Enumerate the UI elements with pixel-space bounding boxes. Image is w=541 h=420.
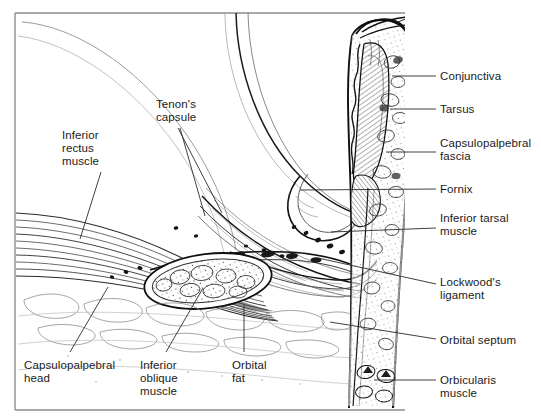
inferior-oblique-muscle-cross-section [141, 246, 275, 315]
label-tenons-capsule: Tenon's capsule [156, 98, 196, 124]
illustration-canvas [0, 0, 541, 420]
leader-line-fornix [300, 189, 436, 190]
label-lockwoods-ligament: Lockwood's ligament [440, 276, 501, 302]
label-inferior-rectus-muscle: Inferior rectus muscle [62, 129, 99, 169]
label-conjunctiva: Conjunctiva [440, 70, 501, 83]
label-orbital-fat: Orbital fat [232, 359, 267, 385]
label-tarsus: Tarsus [440, 103, 474, 116]
label-capsulopalpebral-head: Capsulopalpebral head [24, 359, 115, 385]
label-inferior-oblique-muscle: Inferior oblique muscle [140, 359, 178, 399]
label-capsulopalpebral-fascia: Capsulopalpebral fascia [440, 137, 531, 163]
label-orbital-septum: Orbital septum [440, 334, 516, 347]
leader-line-inferior-rectus-muscle [80, 172, 101, 239]
label-inferior-tarsal-muscle: Inferior tarsal muscle [440, 212, 509, 238]
leader-line-tenons-capsule [178, 128, 222, 213]
anatomical-figure: ConjunctivaTarsusCapsulopalpebral fascia… [0, 0, 541, 420]
label-orbicularis-muscle: Orbicularis muscle [440, 374, 496, 400]
label-fornix: Fornix [440, 183, 473, 196]
eyelid-body [340, 11, 444, 412]
